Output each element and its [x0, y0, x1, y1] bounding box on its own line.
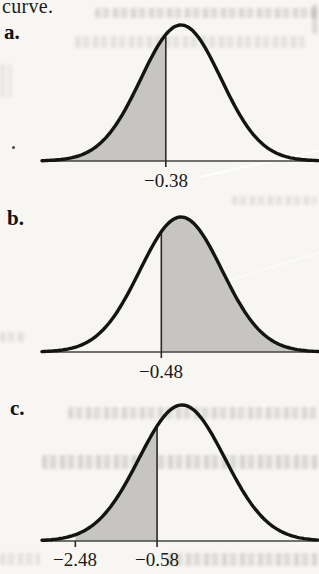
normal-curves-figure	[0, 0, 319, 574]
axis-label-a: −0.38	[138, 170, 194, 192]
panel-b-label: b.	[7, 206, 24, 231]
axis-label-c-left: −2.48	[47, 549, 103, 571]
panel-c-label: c.	[10, 396, 25, 421]
panel-a-label: a.	[4, 20, 20, 45]
scanned-textbook-page: curve. a. b. c. −0.38 −0.48 −2.48 −0.58	[0, 0, 319, 574]
axis-label-c-right: −0.58	[129, 549, 185, 571]
axis-label-b: −0.48	[133, 361, 189, 383]
